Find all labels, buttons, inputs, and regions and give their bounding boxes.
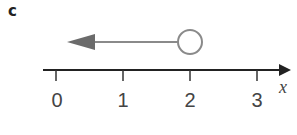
tick-label-0: 0	[51, 89, 62, 112]
open-circle-endpoint	[178, 30, 202, 54]
inequality-ray	[67, 30, 202, 54]
tick-label-1: 1	[117, 89, 128, 112]
axis-variable-label: x	[279, 77, 287, 98]
axis-arrowhead-icon	[279, 64, 291, 76]
x-axis	[43, 64, 291, 81]
number-line-diagram	[0, 0, 297, 135]
tick-label-2: 2	[184, 89, 195, 112]
left-arrowhead-icon	[67, 34, 95, 50]
tick-label-3: 3	[251, 89, 262, 112]
